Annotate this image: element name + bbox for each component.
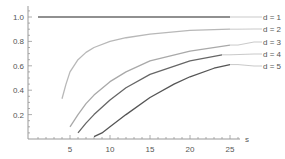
legend-label-d4: d = 4	[263, 50, 282, 59]
x-tick-label: 25	[226, 145, 235, 154]
legend-label-d1: d = 1	[263, 13, 282, 22]
x-axis-label: s	[245, 135, 249, 144]
line-chart: 510152025s0.20.40.60.81.0 d = 1d = 2d = …	[0, 0, 285, 159]
legend-label-d2: d = 2	[263, 25, 282, 34]
y-tick-label: 0.4	[13, 86, 25, 95]
x-tick-label: 20	[186, 145, 195, 154]
x-tick-label: 5	[68, 145, 73, 154]
y-tick-label: 1.0	[13, 13, 25, 22]
legend-label-d5: d = 5	[263, 62, 282, 71]
y-tick-label: 0.8	[13, 37, 25, 46]
y-tick-label: 0.2	[13, 111, 25, 120]
series-line-d2	[62, 29, 230, 99]
axes: 510152025s0.20.40.60.81.0	[13, 6, 249, 154]
legend-label-d3: d = 3	[263, 38, 282, 47]
legend: d = 1d = 2d = 3d = 4d = 5	[222, 13, 282, 71]
series-line-d5	[94, 65, 230, 137]
legend-leader-line	[230, 42, 262, 45]
legend-leader-line	[222, 54, 262, 55]
x-tick-label: 15	[146, 145, 155, 154]
legend-leader-line	[230, 65, 262, 66]
series-line-d4	[78, 55, 222, 133]
y-tick-label: 0.6	[13, 62, 25, 71]
x-tick-label: 10	[106, 145, 115, 154]
series-group	[38, 17, 230, 137]
